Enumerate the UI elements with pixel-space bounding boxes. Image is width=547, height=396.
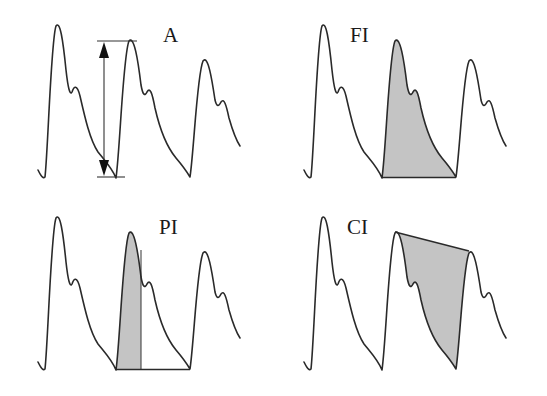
panel-label-pi: PI <box>159 215 178 239</box>
panel-fi: FI <box>304 23 506 178</box>
panel-label-a: A <box>163 23 179 47</box>
panel-a: A <box>38 23 240 178</box>
waveform <box>38 25 240 178</box>
panel-label-ci: CI <box>347 215 368 239</box>
panel-pi: PI <box>38 215 240 370</box>
panel-ci: CI <box>304 215 506 370</box>
full-beat-shaded-area <box>382 40 456 178</box>
panel-label-fi: FI <box>350 23 369 47</box>
pulse-waveform-figure: A FI PI CI <box>0 0 547 396</box>
arrow-up-icon <box>99 42 109 58</box>
arrow-down-icon <box>99 160 109 176</box>
